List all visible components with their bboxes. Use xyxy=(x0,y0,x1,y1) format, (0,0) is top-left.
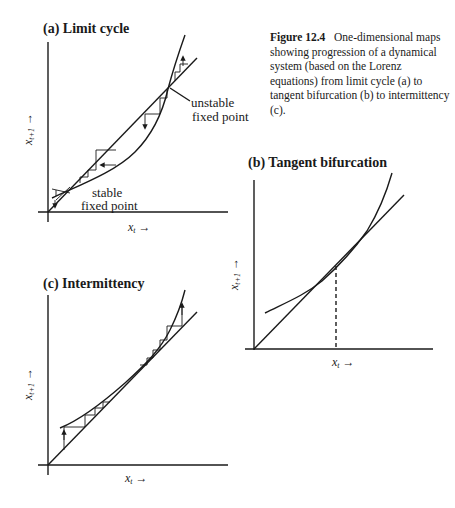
panel-c-cobweb-upper xyxy=(140,306,182,365)
panel-c-title: (c) Intermittency xyxy=(43,276,144,292)
panel-a-y-label: xt+1→ xyxy=(21,113,36,146)
panel-b-y-label: xt+1→ xyxy=(227,258,242,291)
panel-a-unstable-pointer xyxy=(170,88,190,101)
panel-a-unstable-label-1: unstable xyxy=(191,95,235,110)
panel-a-title: (a) Limit cycle xyxy=(43,21,129,37)
panel-b-map-curve xyxy=(265,173,392,313)
panel-a-x-label: xt→ xyxy=(127,220,151,235)
panel-c-identity-line xyxy=(48,312,197,465)
panel-c-intermittency: (c) Intermittency xt→ xt+1→ xyxy=(21,276,228,486)
panel-b-x-label: xt→ xyxy=(331,355,355,370)
panel-c-map-curve xyxy=(60,290,185,428)
panel-c-y-label: xt+1→ xyxy=(21,368,36,401)
panel-c-x-label: xt→ xyxy=(124,471,148,486)
panel-a-stable-label-2: fixed point xyxy=(81,198,138,213)
figure-caption-text: One-dimensional maps showing progression… xyxy=(270,31,449,116)
panel-a-cobweb-upper xyxy=(145,90,167,114)
panel-a-identity-line xyxy=(48,58,197,212)
panel-b-title: (b) Tangent bifurcation xyxy=(248,155,387,171)
panel-a-map-curve xyxy=(52,35,185,198)
panel-b-identity-line xyxy=(254,195,404,349)
figure-caption: Figure 12.4 One-dimensional maps showing… xyxy=(270,30,450,118)
panel-a-cobweb-middle xyxy=(80,150,116,183)
panel-a-unstable-label-2: fixed point xyxy=(192,109,249,124)
figure-label: Figure 12.4 xyxy=(270,31,325,43)
panel-a-limit-cycle: (a) Limit cycle unstable fixed point sta… xyxy=(21,21,249,235)
panel-b-tangent-bifurcation: (b) Tangent bifurcation xt→ xt+1→ xyxy=(227,155,433,370)
